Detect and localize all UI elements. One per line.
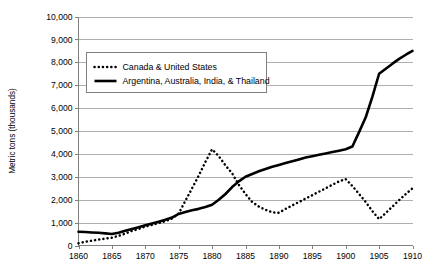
chart-container: 01,0002,0003,0004,0005,0006,0007,0008,00… xyxy=(0,0,423,279)
chart-legend: Canada & United StatesArgentina, Austral… xyxy=(87,53,270,93)
x-axis-tick-label: 1880 xyxy=(203,251,222,261)
legend-label: Canada & United States xyxy=(123,62,218,72)
y-axis-tick-label: 3,000 xyxy=(51,172,73,182)
axis-lines xyxy=(79,17,413,246)
x-axis-tick-label: 1895 xyxy=(303,251,322,261)
x-axis-tick-label: 1890 xyxy=(269,251,288,261)
y-axis-tick-labels: 01,0002,0003,0004,0005,0006,0007,0008,00… xyxy=(46,12,73,251)
y-axis-tick-label: 2,000 xyxy=(51,195,73,205)
x-axis-tick-label: 1875 xyxy=(169,251,188,261)
y-axis-tick-label: 4,000 xyxy=(51,149,73,159)
x-axis-tick-label: 1900 xyxy=(336,251,355,261)
legend-box xyxy=(87,53,267,93)
x-axis-tick-labels: 1860186518701875188018851890189519001905… xyxy=(69,251,422,261)
gridlines xyxy=(79,18,413,224)
y-axis-tick-label: 1,000 xyxy=(51,218,73,228)
x-axis-tick-label: 1865 xyxy=(102,251,121,261)
x-axis-tick-label: 1910 xyxy=(403,251,422,261)
y-axis-tick-label: 7,000 xyxy=(51,80,73,90)
x-axis-tick-label: 1870 xyxy=(136,251,155,261)
y-axis-tick-label: 10,000 xyxy=(46,12,73,22)
y-axis-tick-label: 8,000 xyxy=(51,57,73,67)
y-axis-tick-label: 9,000 xyxy=(51,35,73,45)
y-axis-tick-label: 5,000 xyxy=(51,126,73,136)
y-axis-tick-label: 0 xyxy=(68,241,73,251)
legend-label: Argentina, Australia, India, & Thailand xyxy=(123,76,270,86)
y-axis-title: Metric tons (thousands) xyxy=(8,88,17,174)
x-axis-tick-label: 1885 xyxy=(236,251,255,261)
y-axis-tick-label: 6,000 xyxy=(51,103,73,113)
x-axis-tick-label: 1905 xyxy=(370,251,389,261)
x-axis-tick-label: 1860 xyxy=(69,251,88,261)
line-chart: 01,0002,0003,0004,0005,0006,0007,0008,00… xyxy=(0,0,423,279)
